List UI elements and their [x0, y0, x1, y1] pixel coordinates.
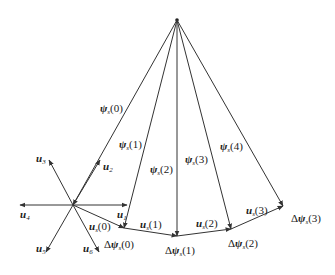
voltage-label-u1: u1	[117, 208, 127, 222]
voltage-label-u3: u3	[36, 152, 46, 166]
voltage-vector-u2	[73, 160, 100, 205]
delta-psi-label-3: Δψs(3)	[291, 212, 321, 226]
voltage-vector-u3	[49, 160, 73, 205]
flux-label-2: ψs(2)	[150, 163, 173, 177]
flux-vector-1	[124, 20, 177, 228]
voltage-label-u6: u6	[83, 242, 93, 256]
flux-label-0: ψs(0)	[100, 102, 123, 116]
us-label-3: us(3)	[246, 204, 268, 218]
us-label-1: us(1)	[140, 218, 162, 232]
us-label-2: us(2)	[196, 217, 218, 231]
flux-vector-0	[73, 20, 177, 205]
diagram-canvas: ψs(0)ψs(1)ψs(2)ψs(3)ψs(4)us(0)us(1)us(2)…	[0, 0, 335, 275]
delta-psi-label-0: Δψs(0)	[104, 238, 134, 252]
flux-vector-4	[177, 20, 283, 206]
voltage-label-u2: u2	[103, 160, 113, 174]
flux-vector-3	[177, 20, 231, 229]
voltage-vector-u5	[46, 205, 73, 252]
delta-psi-label-1: Δψs(1)	[165, 244, 195, 258]
delta-psi-label-2: Δψs(2)	[228, 237, 258, 251]
flux-label-1: ψs(1)	[119, 138, 142, 152]
voltage-label-u4: u4	[20, 208, 30, 222]
flux-trajectory-diagram: ψs(0)ψs(1)ψs(2)ψs(3)ψs(4)us(0)us(1)us(2)…	[0, 0, 335, 275]
flux-label-4: ψs(4)	[220, 140, 243, 154]
voltage-label-u5: u5	[36, 242, 46, 256]
us-label-0: us(0)	[89, 220, 111, 234]
flux-label-3: ψs(3)	[185, 153, 208, 167]
